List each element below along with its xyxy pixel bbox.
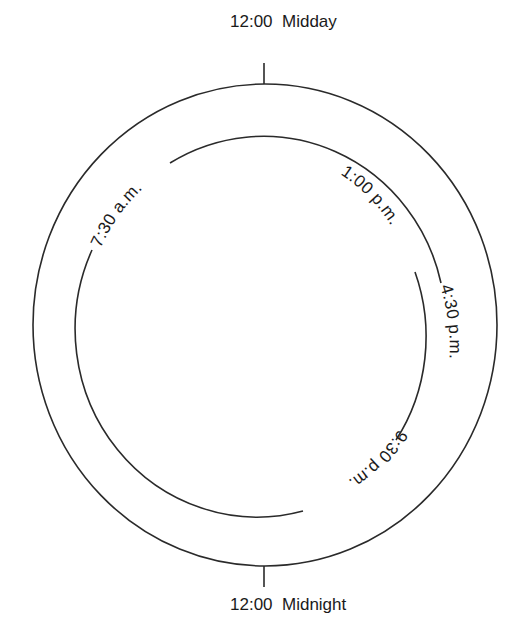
inner-arc-afternoon-evening bbox=[396, 272, 426, 440]
label-0930pm: 9:30 p.m. bbox=[345, 427, 411, 494]
outer-ring bbox=[33, 84, 497, 566]
day-cycle-diagram: 12:00 Midday 12:00 Midnight 7:30 a.m. 1:… bbox=[0, 0, 518, 643]
inner-arc-morning-afternoon bbox=[170, 136, 441, 283]
label-0730am: 7:30 a.m. bbox=[87, 178, 146, 250]
midnight-label: 12:00 Midnight bbox=[230, 595, 347, 614]
label-0430pm: 4:30 p.m. bbox=[436, 282, 464, 360]
inner-arc-night bbox=[75, 250, 303, 517]
midday-label: 12:00 Midday bbox=[230, 12, 337, 31]
